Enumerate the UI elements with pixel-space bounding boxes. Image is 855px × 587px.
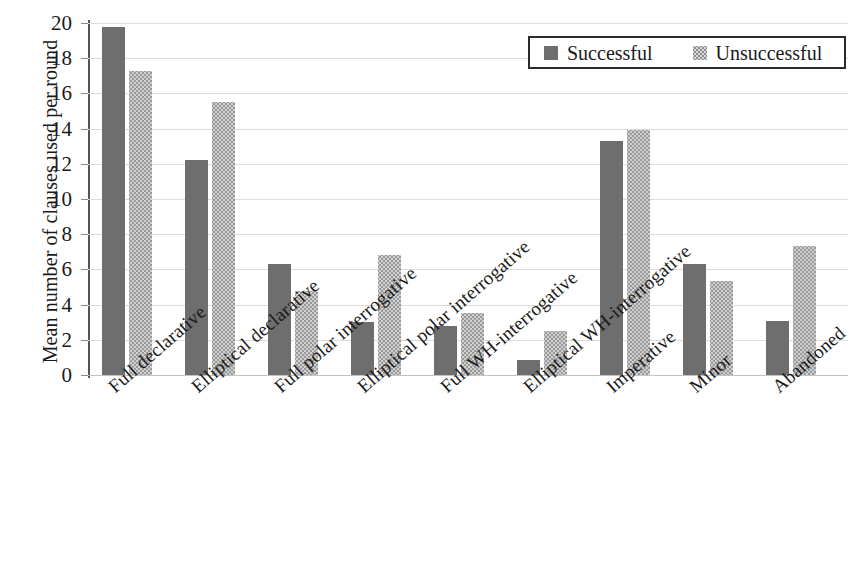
y-tick-mark [81,199,88,200]
bar-successful [102,27,125,375]
y-tick-label: 20 [26,13,72,34]
y-tick-label: 4 [26,295,72,316]
y-tick-mark [81,340,88,341]
legend-label-successful: Successful [567,43,653,63]
legend-item-successful: Successful [544,43,653,63]
y-tick-label: 12 [26,154,72,175]
y-tick-mark [81,234,88,235]
legend-swatch-unsuccessful [693,46,707,60]
y-tick-mark [81,23,88,24]
bar-group [766,23,816,375]
y-tick-mark [81,93,88,94]
bar-group [102,23,152,375]
bar-unsuccessful [212,102,235,375]
y-tick-label: 10 [26,189,72,210]
y-tick-label: 0 [26,365,72,386]
bar-chart: Mean number of clauses used per round 02… [0,0,855,587]
y-tick-mark [81,269,88,270]
legend-label-unsuccessful: Unsuccessful [716,43,823,63]
legend-item-unsuccessful: Unsuccessful [693,43,823,63]
bar-unsuccessful [627,130,650,375]
legend-swatch-successful [544,46,558,60]
chart-legend: Successful Unsuccessful [528,36,846,69]
y-tick-mark [81,375,88,376]
y-tick-label: 8 [26,224,72,245]
y-tick-mark [81,164,88,165]
bar-successful [600,141,623,375]
y-tick-label: 14 [26,119,72,140]
y-tick-mark [81,129,88,130]
y-tick-label: 6 [26,259,72,280]
y-tick-mark [81,58,88,59]
bar-successful [185,160,208,375]
bar-successful [683,264,706,375]
y-tick-label: 18 [26,48,72,69]
y-tick-label: 16 [26,83,72,104]
bar-unsuccessful [129,71,152,375]
y-tick-mark [81,305,88,306]
bar-group [683,23,733,375]
y-tick-label: 2 [26,330,72,351]
